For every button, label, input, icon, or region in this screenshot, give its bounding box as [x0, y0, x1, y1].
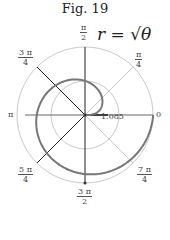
angle-label-0: 0 — [156, 110, 161, 119]
angle-label-7pi-4: 7 π4 — [137, 165, 152, 184]
angle-label-pi-2: π2 — [80, 23, 87, 42]
angle-label-pi-4: π4 — [135, 50, 142, 69]
annotation-value: 1.085 — [101, 112, 124, 121]
angle-label-3pi-4: 3 π4 — [18, 48, 33, 67]
angle-label-5pi-4: 5 π4 — [18, 165, 33, 184]
ray-3pi4 — [37, 67, 85, 115]
ray-5pi4 — [37, 115, 85, 163]
angle-label-pi: π — [8, 110, 13, 119]
angle-label-3pi-2: 3 π2 — [77, 187, 92, 206]
